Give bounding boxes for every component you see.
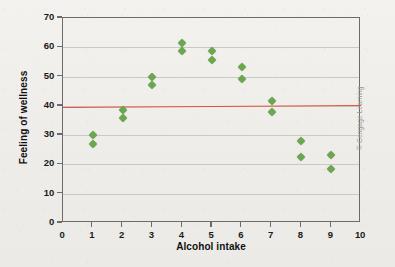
x-tick-5 — [210, 222, 211, 227]
y-tick-60 — [57, 46, 62, 47]
data-point — [89, 140, 97, 148]
gridline-y-10 — [63, 194, 359, 195]
x-tick-7 — [270, 222, 271, 227]
y-tick-40 — [57, 104, 62, 105]
y-tick-label-0: 0 — [49, 217, 54, 227]
data-point — [118, 114, 126, 122]
y-tick-10 — [57, 192, 62, 193]
x-tick-8 — [300, 222, 301, 227]
x-axis-title: Alcohol intake — [62, 241, 360, 252]
gridline-y-20 — [63, 164, 359, 165]
plot-area — [62, 17, 360, 222]
data-point — [148, 72, 156, 80]
gridline-y-30 — [63, 135, 359, 136]
data-point — [178, 47, 186, 55]
data-point — [178, 39, 186, 47]
data-point — [297, 153, 305, 161]
y-tick-20 — [57, 163, 62, 164]
y-tick-label-40: 40 — [44, 100, 54, 110]
y-tick-0 — [57, 221, 62, 222]
data-point — [267, 107, 275, 115]
data-point — [327, 165, 335, 173]
x-tick-4 — [181, 222, 182, 227]
gridline-y-50 — [63, 77, 359, 78]
x-tick-label-8: 8 — [290, 229, 310, 240]
data-point — [89, 131, 97, 139]
x-tick-label-6: 6 — [231, 229, 251, 240]
x-tick-label-5: 5 — [201, 229, 221, 240]
x-tick-9 — [330, 222, 331, 227]
y-tick-30 — [57, 133, 62, 134]
x-tick-label-0: 0 — [52, 229, 72, 240]
y-tick-50 — [57, 75, 62, 76]
x-tick-6 — [240, 222, 241, 227]
y-tick-label-60: 60 — [44, 41, 54, 51]
x-tick-label-2: 2 — [112, 229, 132, 240]
y-tick-label-70: 70 — [44, 12, 54, 22]
x-tick-label-9: 9 — [320, 229, 340, 240]
y-axis-title: Feeling of wellness — [18, 53, 29, 183]
data-point — [148, 81, 156, 89]
data-point — [327, 151, 335, 159]
data-point — [208, 47, 216, 55]
y-tick-70 — [57, 16, 62, 17]
x-tick-label-3: 3 — [141, 229, 161, 240]
copyright-credit: © Cengage Learning — [356, 60, 363, 150]
x-tick-label-7: 7 — [261, 229, 281, 240]
y-tick-label-20: 20 — [44, 158, 54, 168]
data-point — [297, 137, 305, 145]
x-tick-2 — [121, 222, 122, 227]
y-tick-label-30: 30 — [44, 129, 54, 139]
x-tick-3 — [151, 222, 152, 227]
x-tick-1 — [91, 222, 92, 227]
data-point — [267, 97, 275, 105]
data-point — [238, 63, 246, 71]
y-tick-label-10: 10 — [44, 188, 54, 198]
y-tick-label-50: 50 — [44, 71, 54, 81]
x-tick-label-1: 1 — [82, 229, 102, 240]
x-tick-label-4: 4 — [171, 229, 191, 240]
data-point — [208, 56, 216, 64]
figure-scatter-plot: Alcohol intake Feeling of wellness © Cen… — [0, 0, 395, 267]
x-tick-label-10: 10 — [350, 229, 370, 240]
